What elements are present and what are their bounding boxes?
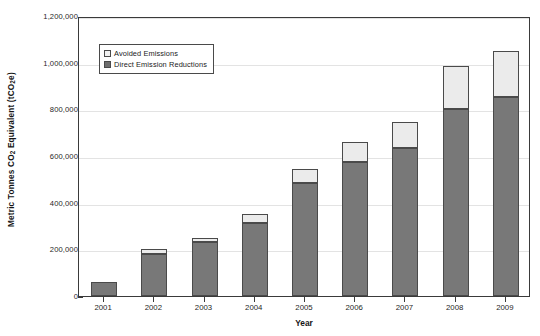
bar-segment-direct-emission-reductions[interactable] bbox=[443, 109, 469, 296]
x-tick-label: 2008 bbox=[432, 303, 478, 312]
bar-segment-avoided-emissions[interactable] bbox=[392, 122, 418, 148]
x-tick-mark bbox=[505, 297, 506, 302]
bar-segment-avoided-emissions[interactable] bbox=[342, 142, 368, 162]
y-tick-label: 200,000 bbox=[16, 245, 78, 254]
y-tick-label: 1,000,000 bbox=[16, 59, 78, 68]
y-tick-label: 1,200,000 bbox=[16, 12, 78, 21]
legend-swatch-avoided-icon bbox=[104, 50, 111, 57]
bar-segment-direct-emission-reductions[interactable] bbox=[91, 282, 117, 296]
legend-item-avoided-emissions: Avoided Emissions bbox=[104, 49, 207, 59]
x-tick-label: 2004 bbox=[231, 303, 277, 312]
bar-segment-avoided-emissions[interactable] bbox=[292, 169, 318, 183]
y-tick-label: 800,000 bbox=[16, 105, 78, 114]
emissions-stacked-bar-chart: Metric Tonnes CO2 Equivalent (tCO2e) 020… bbox=[0, 0, 540, 336]
bar-segment-direct-emission-reductions[interactable] bbox=[392, 148, 418, 296]
chart-legend: Avoided Emissions Direct Emission Reduct… bbox=[99, 44, 214, 74]
bar-segment-avoided-emissions[interactable] bbox=[443, 66, 469, 109]
bar-segment-avoided-emissions[interactable] bbox=[242, 214, 268, 222]
x-tick-mark bbox=[153, 297, 154, 302]
x-tick-label: 2005 bbox=[281, 303, 327, 312]
gridline bbox=[79, 18, 529, 19]
bar-segment-avoided-emissions[interactable] bbox=[141, 249, 167, 254]
y-tick-label: 0 bbox=[16, 292, 78, 301]
x-tick-label: 2003 bbox=[181, 303, 227, 312]
x-tick-label: 2002 bbox=[130, 303, 176, 312]
x-tick-mark bbox=[254, 297, 255, 302]
y-tick-label: 400,000 bbox=[16, 199, 78, 208]
bar-segment-direct-emission-reductions[interactable] bbox=[493, 97, 519, 297]
x-tick-mark bbox=[304, 297, 305, 302]
x-tick-mark bbox=[404, 297, 405, 302]
bar-segment-direct-emission-reductions[interactable] bbox=[141, 254, 167, 296]
y-axis-ticks: 0200,000400,000600,000800,0001,000,0001,… bbox=[8, 17, 78, 297]
legend-label-avoided: Avoided Emissions bbox=[114, 49, 178, 58]
bar-segment-direct-emission-reductions[interactable] bbox=[192, 242, 218, 296]
x-tick-label: 2007 bbox=[381, 303, 427, 312]
bar-segment-direct-emission-reductions[interactable] bbox=[292, 183, 318, 296]
bar-segment-direct-emission-reductions[interactable] bbox=[242, 223, 268, 297]
bar-segment-avoided-emissions[interactable] bbox=[192, 238, 218, 243]
x-tick-mark bbox=[204, 297, 205, 302]
legend-label-direct: Direct Emission Reductions bbox=[114, 60, 207, 69]
x-tick-mark bbox=[354, 297, 355, 302]
legend-item-direct-emission-reductions: Direct Emission Reductions bbox=[104, 59, 207, 69]
legend-swatch-direct-icon bbox=[104, 61, 111, 68]
x-tick-mark bbox=[103, 297, 104, 302]
x-axis-labels: 200120022003200420052006200720082009 bbox=[78, 303, 530, 317]
x-tick-label: 2009 bbox=[482, 303, 528, 312]
x-tick-label: 2001 bbox=[80, 303, 126, 312]
x-axis-title: Year bbox=[78, 318, 530, 328]
x-tick-label: 2006 bbox=[331, 303, 377, 312]
bar-segment-direct-emission-reductions[interactable] bbox=[342, 162, 368, 296]
bar-segment-avoided-emissions[interactable] bbox=[493, 51, 519, 97]
y-tick-label: 600,000 bbox=[16, 152, 78, 161]
x-tick-mark bbox=[455, 297, 456, 302]
